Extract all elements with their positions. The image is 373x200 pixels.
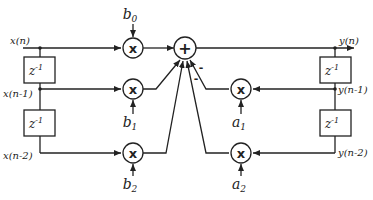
b1-to-adder-line [143, 60, 180, 89]
label-x-n2: x(n-2) [3, 150, 33, 161]
b2-to-adder-line [143, 61, 183, 153]
biquad-filter-diagram: x x x x x + - - z-1 z-1 z-1 z-1 x(n) x(n… [0, 0, 373, 200]
multiplier-b1-symbol: x [129, 82, 138, 97]
label-y-n2: y(n-2) [337, 147, 368, 158]
label-x-n1: x(n-1) [3, 88, 33, 99]
minus-sign-a1: - [199, 61, 204, 74]
coef-b0: b0 [123, 6, 138, 24]
multiplier-b0-symbol: x [129, 41, 138, 56]
coef-a1: a1 [232, 114, 246, 132]
coef-b2: b2 [123, 176, 138, 194]
label-y-n: y(n) [338, 35, 359, 46]
junction-dot [333, 87, 337, 91]
coef-b1: b1 [123, 114, 138, 132]
adder-symbol: + [178, 39, 191, 58]
junction-dot [38, 46, 42, 50]
multiplier-a2-symbol: x [237, 146, 246, 161]
label-y-n1: y(n-1) [337, 84, 368, 95]
coef-a2: a2 [232, 176, 246, 194]
minus-sign-a2: - [194, 72, 199, 85]
label-x-n: x(n) [10, 35, 30, 46]
junction-dot [38, 87, 42, 91]
junction-dot [333, 46, 337, 50]
multiplier-a1-symbol: x [237, 82, 246, 97]
multiplier-b2-symbol: x [129, 146, 138, 161]
